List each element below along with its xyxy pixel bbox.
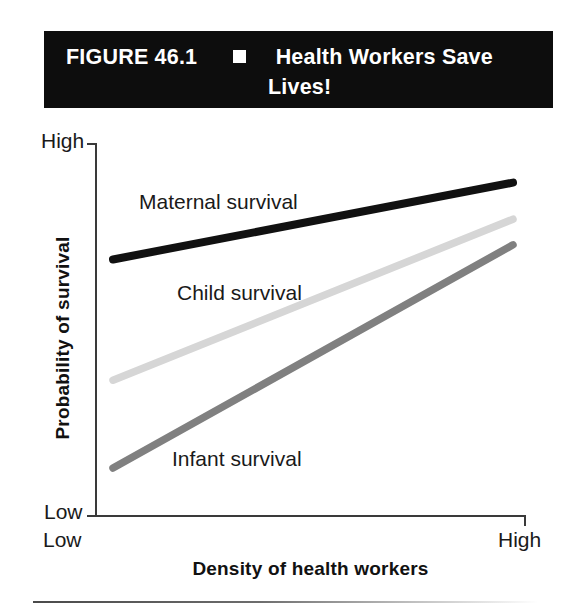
x-axis-line <box>95 515 526 517</box>
figure-header-banner: FIGURE 46.1 Health Workers Save Lives! <box>44 31 553 108</box>
figure-number-label: FIGURE 46.1 <box>66 42 197 72</box>
figure-title-line-2: Lives! <box>268 72 543 102</box>
y-axis-title: Probability of survival <box>52 213 74 463</box>
figure-header-content: FIGURE 46.1 Health Workers Save Lives! <box>66 42 543 102</box>
x-axis-title: Density of health workers <box>95 558 526 580</box>
y-axis-tick-high <box>87 143 96 145</box>
bottom-divider-rule <box>33 601 538 603</box>
x-axis-label-high: High <box>498 528 541 552</box>
y-axis-label-high: High <box>41 129 84 153</box>
white-square-bullet-icon <box>233 50 246 63</box>
y-axis-line <box>95 143 97 517</box>
x-axis-label-low: Low <box>43 528 82 552</box>
y-axis-label-low: Low <box>44 500 83 524</box>
figure-header-line-1: FIGURE 46.1 Health Workers Save <box>66 42 543 72</box>
series-label-infant-survival: Infant survival <box>172 447 302 471</box>
x-axis-tick-high <box>524 515 526 526</box>
series-line-infant-survival <box>113 245 513 468</box>
series-label-child-survival: Child survival <box>177 281 302 305</box>
series-line-child-survival <box>113 219 513 380</box>
series-label-maternal-survival: Maternal survival <box>139 190 298 214</box>
figure-container: FIGURE 46.1 Health Workers Save Lives! H… <box>0 0 581 607</box>
figure-title-line-1: Health Workers Save <box>276 42 493 72</box>
y-axis-tick-low <box>87 515 96 517</box>
